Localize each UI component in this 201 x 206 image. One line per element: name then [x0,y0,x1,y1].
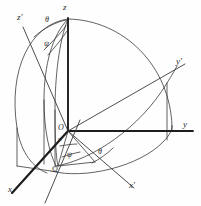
construction-line-node-to-mid [58,162,95,166]
arc-z-to-y-meridian [68,19,172,126]
construction-line-origin-to-xprime [68,131,95,162]
arc-z-to-x-meridian [15,19,68,173]
axis-label-z-prime: z′ [17,13,22,22]
axis-label-y-prime: y′ [176,57,182,66]
angle-arc-psi-origin [60,144,77,146]
angle-label-psi-origin: ψ [58,136,62,143]
diagram-canvas: z z′ y′ y x x′ O θ ψ θ ψ ψ Ω [0,0,201,206]
axis-label-x-prime: x′ [129,181,135,190]
axis-label-x: x [8,185,12,194]
angle-label-theta-bottom: θ [98,148,102,156]
angle-label-theta-top: θ [45,16,49,24]
node-label-omega: Ω [52,166,58,174]
angle-arc-theta-top [34,20,66,37]
diagram-vector-graphics [0,0,201,206]
arc-orbit-plane [56,66,177,166]
axis-label-z: z [63,3,67,12]
angle-label-psi-bottom: ψ [67,151,72,159]
origin-label: O [58,124,64,132]
axis-label-y: y [183,120,187,129]
node-line [45,120,80,203]
angle-label-psi-top: ψ [44,40,49,48]
